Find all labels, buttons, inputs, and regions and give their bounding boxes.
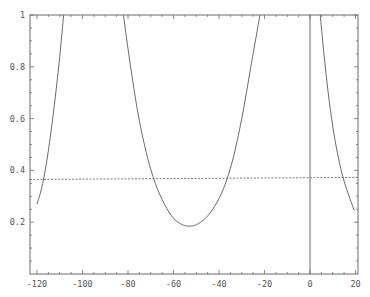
- x-tick-label: -60: [166, 279, 181, 289]
- y-axis-tick-labels: 0.20.40.60.81: [10, 10, 25, 227]
- x-axis-ticks: [37, 15, 356, 274]
- x-tick-label: -20: [257, 279, 272, 289]
- y-tick-label: 0.2: [10, 217, 25, 227]
- x-tick-label: 0: [307, 279, 312, 289]
- y-tick-label: 0.8: [10, 62, 25, 72]
- series-threshold: [30, 177, 358, 179]
- x-tick-label: -40: [211, 279, 226, 289]
- y-tick-label: 1: [20, 10, 25, 20]
- plot-border: [30, 15, 358, 274]
- x-tick-label: -100: [72, 279, 92, 289]
- y-tick-label: 0.6: [10, 114, 25, 124]
- x-tick-label: -80: [120, 279, 135, 289]
- y-tick-label: 0.4: [10, 165, 25, 175]
- plot-frame: [30, 15, 358, 274]
- series-right-branch: [320, 15, 354, 211]
- x-tick-label: 20: [350, 279, 360, 289]
- series-left-branch: [37, 15, 64, 204]
- series-middle-well: [123, 15, 260, 226]
- data-series: [30, 15, 358, 274]
- x-axis-tick-labels: -120-100-80-60-40-20020: [27, 279, 361, 289]
- line-chart: -120-100-80-60-40-20020 0.20.40.60.81: [0, 0, 370, 297]
- y-axis-ticks: [30, 15, 358, 261]
- x-tick-label: -120: [27, 279, 47, 289]
